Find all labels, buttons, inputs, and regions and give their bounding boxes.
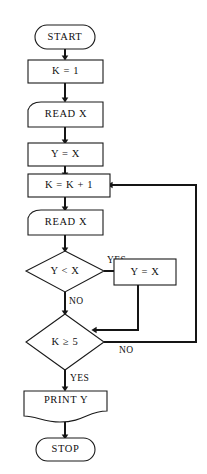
edge-label-no-y-less-x: NO [69, 296, 84, 306]
edge-update-y-to-cmp-k-5 [94, 285, 138, 330]
flowchart-svg: YES NO NO YES START K = 1 READ X Y = X [0, 0, 207, 474]
edge-label-no-k-ge-5: NO [119, 345, 134, 355]
node-init-k[interactable]: K = 1 [28, 60, 103, 83]
cmp-k-ge-5-label: K ≥ 5 [52, 336, 79, 347]
flowchart-canvas: YES NO NO YES START K = 1 READ X Y = X [0, 0, 207, 474]
node-incr-k[interactable]: K = K + 1 [28, 174, 110, 197]
start-label: START [48, 31, 83, 42]
node-stop[interactable]: STOP [36, 438, 95, 461]
cmp-y-less-x-label: Y < X [51, 265, 80, 276]
stop-label: STOP [52, 443, 80, 454]
node-update-y[interactable]: Y = X [114, 259, 176, 285]
init-k-label: K = 1 [52, 65, 79, 76]
node-cmp-k-ge-5[interactable]: K ≥ 5 [26, 314, 104, 370]
read-x-first-label: READ X [45, 108, 87, 119]
node-assign-y[interactable]: Y = X [28, 143, 103, 166]
incr-k-label: K = K + 1 [45, 179, 93, 190]
read-x-second-label: READ X [45, 216, 87, 227]
node-cmp-y-less-x[interactable]: Y < X [26, 251, 104, 292]
node-print-y[interactable]: PRINT Y [24, 391, 107, 422]
node-read-x-second[interactable]: READ X [28, 210, 103, 235]
assign-y-label: Y = X [51, 148, 80, 159]
update-y-label: Y = X [131, 266, 160, 277]
node-read-x-first[interactable]: READ X [28, 102, 103, 127]
edge-label-yes-k-ge-5: YES [70, 373, 89, 383]
print-y-label: PRINT Y [44, 394, 88, 405]
node-start[interactable]: START [35, 25, 95, 49]
